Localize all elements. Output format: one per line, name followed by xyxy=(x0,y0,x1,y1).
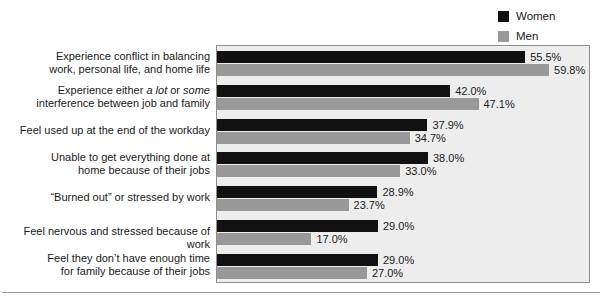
legend-label-men: Men xyxy=(516,31,538,43)
chart-figure: Women Men Experience conflict in balanci… xyxy=(0,0,604,304)
bar-row: 27.0% xyxy=(217,267,589,279)
bar-group: 37.9%34.7% xyxy=(217,113,589,147)
bar-value-label: 38.0% xyxy=(428,152,464,164)
bar-row: 23.7% xyxy=(217,199,589,211)
bar-value-label: 29.0% xyxy=(378,220,414,232)
bar-value-label: 23.7% xyxy=(349,199,385,211)
plot-area: 55.5%59.8%42.0%47.1%37.9%34.7%38.0%33.0%… xyxy=(217,46,589,282)
bar-value-label: 37.9% xyxy=(427,119,463,131)
bar-row: 28.9% xyxy=(217,186,589,198)
bar-value-label: 59.8% xyxy=(549,64,585,76)
bar-row: 59.8% xyxy=(217,64,589,76)
category-label: “Burned out” or stressed by work xyxy=(0,191,210,204)
bar-row: 38.0% xyxy=(217,152,589,164)
bar-value-label: 47.1% xyxy=(479,98,515,110)
bar-men[interactable] xyxy=(217,165,400,177)
bar-row: 29.0% xyxy=(217,220,589,232)
category-label: Feel nervous and stressed because of wor… xyxy=(0,225,210,251)
bar-women[interactable] xyxy=(217,254,378,266)
bar-men[interactable] xyxy=(217,132,410,144)
bar-row: 34.7% xyxy=(217,132,589,144)
bar-group: 42.0%47.1% xyxy=(217,80,589,114)
bar-row: 42.0% xyxy=(217,85,589,97)
category-label: Feel used up at the end of the workday xyxy=(0,124,210,137)
legend-label-women: Women xyxy=(516,11,555,23)
bottom-rule xyxy=(2,292,600,293)
bar-row: 47.1% xyxy=(217,98,589,110)
bar-men[interactable] xyxy=(217,199,349,211)
bar-group: 38.0%33.0% xyxy=(217,147,589,181)
bar-women[interactable] xyxy=(217,220,378,232)
bar-value-label: 34.7% xyxy=(410,132,446,144)
plot-frame: 55.5%59.8%42.0%47.1%37.9%34.7%38.0%33.0%… xyxy=(216,45,590,283)
bar-women[interactable] xyxy=(217,51,525,63)
category-label: Experience either a lot or someinterfere… xyxy=(0,84,210,110)
category-label: Unable to get everything done athome bec… xyxy=(0,151,210,177)
bar-men[interactable] xyxy=(217,233,311,245)
bar-group: 29.0%27.0% xyxy=(217,248,589,282)
bar-row: 37.9% xyxy=(217,119,589,131)
bar-row: 29.0% xyxy=(217,254,589,266)
bar-group: 29.0%17.0% xyxy=(217,215,589,249)
bar-value-label: 17.0% xyxy=(311,233,347,245)
bar-row: 33.0% xyxy=(217,165,589,177)
bar-value-label: 28.9% xyxy=(377,186,413,198)
category-label: Feel they don’t have enough timefor fami… xyxy=(0,252,210,278)
bar-women[interactable] xyxy=(217,85,450,97)
bar-men[interactable] xyxy=(217,64,549,76)
bar-group: 55.5%59.8% xyxy=(217,46,589,80)
bar-value-label: 42.0% xyxy=(450,85,486,97)
bar-group: 28.9%23.7% xyxy=(217,181,589,215)
bar-women[interactable] xyxy=(217,186,377,198)
bar-row: 55.5% xyxy=(217,51,589,63)
square-swatch-icon xyxy=(498,11,509,22)
legend-item-men: Men xyxy=(498,28,598,45)
bar-value-label: 27.0% xyxy=(367,267,403,279)
bar-men[interactable] xyxy=(217,98,479,110)
bar-row: 17.0% xyxy=(217,233,589,245)
bar-value-label: 33.0% xyxy=(400,165,436,177)
legend-item-women: Women xyxy=(498,8,598,25)
category-label-column: Experience conflict in balancingwork, pe… xyxy=(0,45,210,283)
bar-men[interactable] xyxy=(217,267,367,279)
bar-value-label: 29.0% xyxy=(378,254,414,266)
square-swatch-icon xyxy=(498,31,509,42)
category-label: Experience conflict in balancingwork, pe… xyxy=(0,50,210,76)
bar-women[interactable] xyxy=(217,119,427,131)
bar-women[interactable] xyxy=(217,152,428,164)
chart-legend: Women Men xyxy=(498,8,598,48)
bar-value-label: 55.5% xyxy=(525,51,561,63)
